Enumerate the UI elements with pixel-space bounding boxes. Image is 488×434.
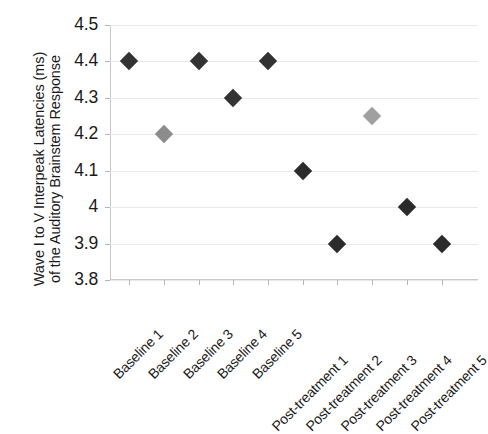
y-axis-tick-label: 3.8 [52,271,98,289]
y-axis-tick [105,25,110,26]
y-axis-tick-label: 4.2 [52,126,98,144]
data-point [259,52,277,70]
data-point [328,234,346,252]
data-point [432,234,450,252]
y-axis-tick-label: 4.1 [52,162,98,180]
y-axis-tick-label: 4.5 [52,16,98,34]
y-axis-tick [105,134,110,135]
data-point [120,52,138,70]
y-axis-tick [105,207,110,208]
y-axis-tick [105,98,110,99]
y-axis-tick-label: 3.9 [52,235,98,253]
gridline [110,244,478,245]
gridline [110,98,478,99]
y-axis-tick-label: 4.3 [52,89,98,107]
y-axis-title-line-1: Wave I to V Interpeak Latencies (ms) [31,52,47,286]
x-axis-tick-labels: Baseline 1Baseline 2Baseline 3Baseline 4… [110,281,478,416]
data-point [155,125,173,143]
data-point [398,198,416,216]
gridline [110,61,478,62]
data-point [293,162,311,180]
y-axis-line [110,25,111,280]
plot-area [110,25,478,280]
y-axis-tick [105,171,110,172]
data-point [224,89,242,107]
data-point [363,107,381,125]
gridline [110,207,478,208]
y-axis-tick-label: 4 [52,198,98,216]
gridline [110,25,478,26]
y-axis-tick-label: 4.4 [52,53,98,71]
y-axis-tick-labels: 4.54.44.34.24.143.93.8 [50,0,98,416]
y-axis-tick [105,61,110,62]
y-axis-tick [105,244,110,245]
data-point [189,52,207,70]
